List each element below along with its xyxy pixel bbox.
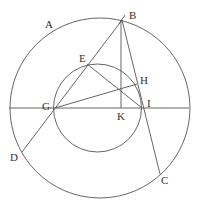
point-label-c: C [161, 174, 168, 186]
point-label-g: G [42, 100, 50, 112]
line-G-H [55, 84, 137, 108]
line-E-I [87, 64, 142, 108]
point-label-h: H [140, 74, 148, 86]
point-label-e: E [79, 52, 86, 64]
tick-B [119, 15, 125, 24]
line-B-D [22, 20, 122, 152]
geometry-diagram: ABCDEGHIK [0, 0, 197, 205]
diagram-canvas: ABCDEGHIK [0, 0, 197, 205]
point-label-a: A [45, 18, 53, 30]
labels-layer: ABCDEGHIK [10, 9, 168, 186]
point-label-k: K [117, 110, 125, 122]
point-label-d: D [10, 151, 18, 163]
point-label-b: B [129, 9, 136, 21]
point-label-i: I [147, 97, 151, 109]
shapes-layer [9, 15, 190, 198]
